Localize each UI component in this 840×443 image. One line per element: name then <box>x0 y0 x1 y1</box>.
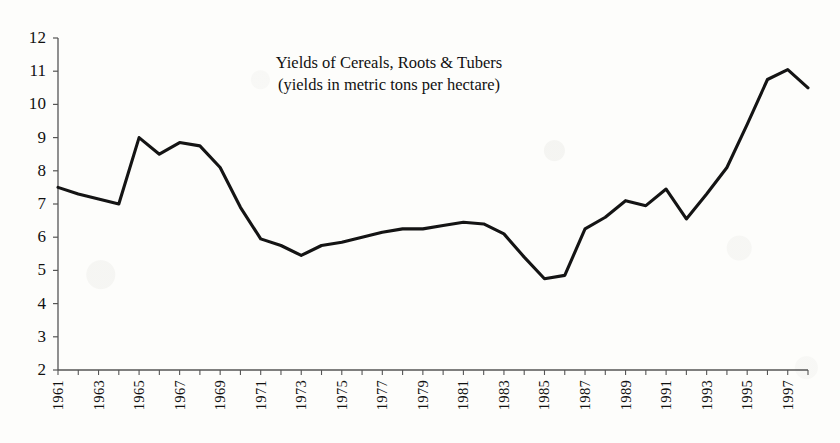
y-axis-tick-label: 5 <box>16 261 46 278</box>
y-axis-tick-label: 12 <box>16 29 46 46</box>
y-axis-tick-label: 4 <box>16 295 46 312</box>
x-axis-tick-label: 1989 <box>619 380 634 410</box>
y-axis-tick-label: 11 <box>16 62 46 79</box>
x-axis-tick-label: 1963 <box>92 380 107 410</box>
chart-title: Yields of Cereals, Roots & Tubers <box>276 53 502 72</box>
x-axis-tick-label: 1961 <box>51 380 66 410</box>
x-axis-tick-label: 1973 <box>294 380 309 410</box>
x-axis-tick-label: 1987 <box>578 380 593 410</box>
y-axis-tick-label: 7 <box>16 195 46 212</box>
x-axis-tick-label: 1969 <box>213 380 228 410</box>
x-axis-tick-label: 1993 <box>700 380 715 410</box>
x-axis-tick-label: 1983 <box>497 380 512 410</box>
x-axis-tick-label: 1991 <box>659 380 674 410</box>
x-axis-ticks <box>58 370 808 375</box>
x-axis-tick-label: 1981 <box>456 380 471 410</box>
y-axis-tick-label: 3 <box>16 328 46 345</box>
y-axis-tick-label: 10 <box>16 95 46 112</box>
x-axis-tick-label: 1965 <box>132 380 147 410</box>
x-axis-tick-label: 1985 <box>537 380 552 410</box>
chart-title-block: Yields of Cereals, Roots & Tubers (yield… <box>224 52 554 96</box>
y-axis-ticks <box>53 38 58 370</box>
y-axis-tick-label: 6 <box>16 228 46 245</box>
x-axis-tick-label: 1971 <box>254 380 269 410</box>
x-axis-tick-label: 1977 <box>375 380 390 410</box>
x-axis-tick-label: 1967 <box>173 380 188 410</box>
chart-container: Yields of Cereals, Roots & Tubers (yield… <box>0 0 840 443</box>
x-axis-tick-label: 1995 <box>740 380 755 410</box>
y-axis-tick-label: 9 <box>16 129 46 146</box>
chart-subtitle: (yields in metric tons per hectare) <box>224 74 554 96</box>
x-axis-tick-label: 1979 <box>416 380 431 410</box>
x-axis-tick-label: 1997 <box>781 380 796 410</box>
y-axis-tick-label: 2 <box>16 361 46 378</box>
data-series-line <box>58 70 808 279</box>
y-axis-tick-label: 8 <box>16 162 46 179</box>
x-axis-tick-label: 1975 <box>335 380 350 410</box>
